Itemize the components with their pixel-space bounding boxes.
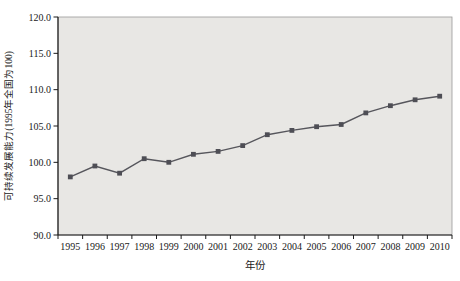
data-point-2004 xyxy=(290,128,295,133)
data-point-2007 xyxy=(363,111,368,116)
data-point-2001 xyxy=(216,149,221,154)
data-point-1999 xyxy=(166,160,171,165)
chart-canvas: 90.095.0100.0105.0110.0115.0120.01995199… xyxy=(0,0,460,281)
x-tick-label: 2003 xyxy=(257,241,277,252)
data-point-2000 xyxy=(191,152,196,157)
plot-layer: 90.095.0100.0105.0110.0115.0120.01995199… xyxy=(29,12,453,252)
data-point-2009 xyxy=(413,97,418,102)
x-tick-label: 2010 xyxy=(430,241,450,252)
x-tick-label: 1995 xyxy=(60,241,80,252)
y-tick-label: 100.0 xyxy=(29,157,52,168)
x-tick-label: 2005 xyxy=(307,241,327,252)
y-tick-label: 115.0 xyxy=(29,48,51,59)
y-tick-label: 110.0 xyxy=(29,84,51,95)
data-point-1998 xyxy=(142,156,147,161)
data-point-1997 xyxy=(117,171,122,176)
y-tick-label: 105.0 xyxy=(29,121,52,132)
y-tick-label: 90.0 xyxy=(34,230,52,241)
y-tick-label: 120.0 xyxy=(29,12,52,23)
x-tick-label: 2001 xyxy=(208,241,228,252)
y-axis-title: 可持续发展能力(1995年全国为100) xyxy=(3,51,15,201)
data-point-1996 xyxy=(93,164,98,169)
data-point-2003 xyxy=(265,132,270,137)
plot-background xyxy=(58,17,452,235)
data-point-1995 xyxy=(68,175,73,180)
x-tick-label: 1999 xyxy=(159,241,179,252)
x-tick-label: 1996 xyxy=(85,241,105,252)
x-tick-label: 1997 xyxy=(110,241,130,252)
data-point-2008 xyxy=(388,103,393,108)
x-tick-label: 2008 xyxy=(380,241,400,252)
data-point-2010 xyxy=(437,94,442,99)
data-point-2006 xyxy=(339,122,344,127)
x-tick-label: 2007 xyxy=(356,241,376,252)
x-tick-label: 2004 xyxy=(282,241,302,252)
data-point-2002 xyxy=(240,143,245,148)
x-tick-label: 2000 xyxy=(183,241,203,252)
x-tick-label: 2002 xyxy=(233,241,253,252)
x-tick-label: 2006 xyxy=(331,241,351,252)
x-tick-label: 2009 xyxy=(405,241,425,252)
x-tick-label: 1998 xyxy=(134,241,154,252)
y-tick-label: 95.0 xyxy=(34,193,52,204)
line-chart-figure: 90.095.0100.0105.0110.0115.0120.01995199… xyxy=(0,0,460,281)
data-point-2005 xyxy=(314,124,319,129)
x-axis-title: 年份 xyxy=(245,259,266,271)
